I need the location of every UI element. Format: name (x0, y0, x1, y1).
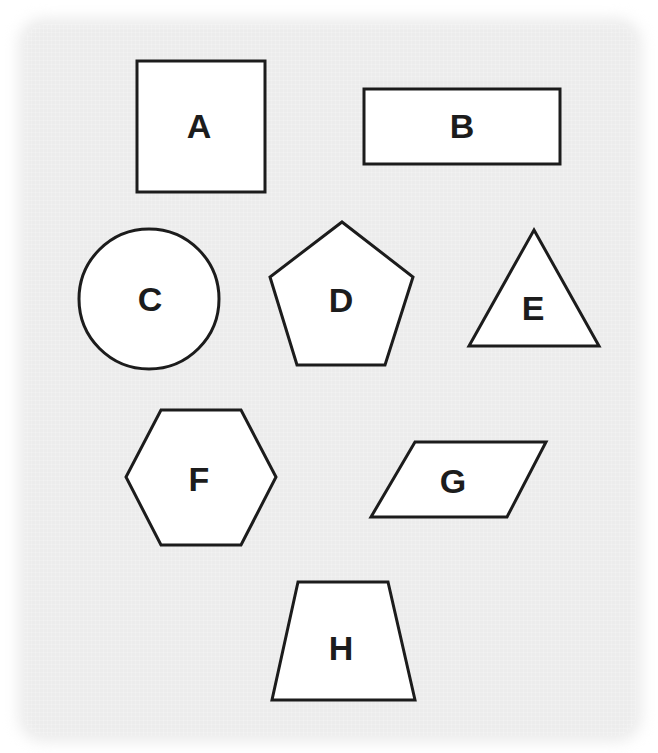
shapes-figure: ABCDEFGH (0, 0, 658, 753)
shape-label-h: H (329, 631, 354, 665)
shape-label-a: A (187, 109, 212, 143)
shape-label-d: D (329, 283, 354, 317)
shape-label-b: B (450, 109, 475, 143)
shape-triangle-e (469, 230, 599, 346)
shape-label-c: C (138, 282, 163, 316)
shape-label-f: F (189, 462, 210, 496)
shape-label-e: E (522, 291, 545, 325)
shape-label-g: G (440, 464, 466, 498)
